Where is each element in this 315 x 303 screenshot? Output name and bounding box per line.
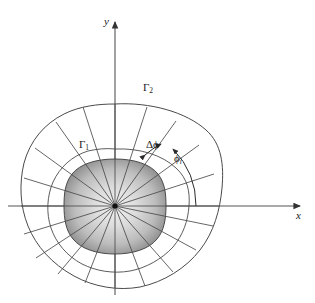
origin-point [112,203,117,208]
gamma1-label: Γ1 [79,139,89,152]
phi-subscript: i [180,157,182,166]
polar-mesh-diagram [0,0,315,303]
gamma2-subscript: 2 [149,86,153,95]
delta-phi-label: Δϕ [146,139,159,150]
x-axis-label: x [296,210,301,221]
axes-group [8,22,300,295]
gamma2-label: Γ2 [143,82,153,95]
figure-canvas: y x Γ1 Γ2 Δϕ ϕi [0,0,315,303]
phi-i-label: ϕi [174,153,182,166]
gamma1-subscript: 1 [85,143,89,152]
y-axis-label: y [104,16,109,27]
